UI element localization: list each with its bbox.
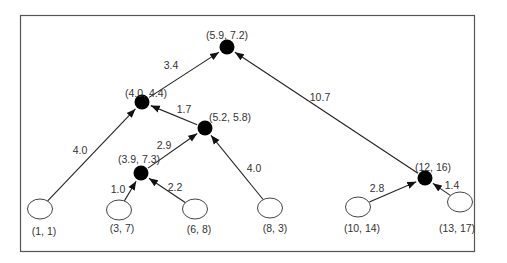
cluster-node (220, 40, 235, 55)
edge-weight-label: 2.8 (370, 182, 385, 194)
node-coordinate-label: (1, 1) (32, 225, 57, 237)
node-coordinate-label: (13, 17) (439, 222, 475, 234)
diagram-frame (21, 16, 475, 252)
cluster-tree-diagram: 3.410.74.01.72.94.01.02.22.81.4(5.9, 7.2… (0, 0, 507, 263)
leaf-node (258, 198, 283, 218)
node-coordinate-label: (12, 16) (415, 161, 451, 173)
node-coordinate-label: (5.9, 7.2) (206, 29, 248, 41)
edge-weight-label: 2.2 (168, 181, 183, 193)
edge-weight-label: 1.7 (177, 103, 192, 115)
leaf-node (346, 197, 371, 217)
leaf-node (183, 199, 208, 219)
node-coordinate-label: (5.2, 5.8) (209, 111, 251, 123)
node-coordinate-label: (3, 7) (110, 222, 135, 234)
node-coordinate-label: (4.0, 4.4) (125, 87, 167, 99)
node-coordinate-label: (3.9, 7.3) (118, 153, 160, 165)
edge-weight-label: 2.9 (157, 139, 172, 151)
edge-weight-label: 1.0 (111, 183, 126, 195)
leaf-node (448, 192, 473, 212)
edge-weight-label: 4.0 (247, 162, 262, 174)
edge-weight-label: 3.4 (164, 59, 179, 71)
node-coordinate-label: (6, 8) (187, 223, 212, 235)
node-coordinate-label: (10, 14) (344, 222, 380, 234)
leaf-node (107, 200, 132, 220)
edge-weight-label: 10.7 (310, 91, 331, 103)
cluster-node (134, 166, 149, 181)
leaf-node (28, 199, 53, 219)
edge-weight-label: 4.0 (73, 144, 88, 156)
node-coordinate-label: (8, 3) (263, 222, 288, 234)
edge-weight-label: 1.4 (445, 179, 460, 191)
